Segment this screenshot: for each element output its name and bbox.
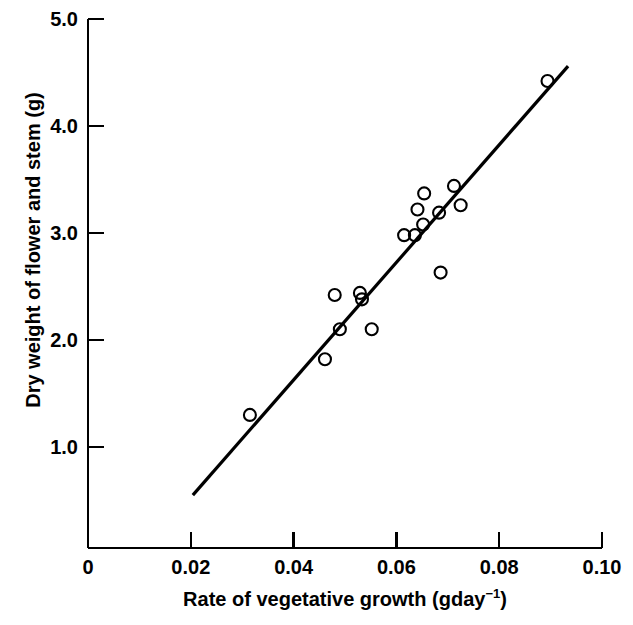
- y-axis-ticks: [88, 19, 104, 447]
- axis-lines: [88, 19, 602, 548]
- data-point: [417, 218, 429, 230]
- x-tick-label: 0.10: [583, 556, 622, 579]
- data-point: [329, 289, 341, 301]
- data-point-markers: [244, 75, 554, 421]
- data-point: [542, 75, 554, 87]
- data-point: [435, 267, 447, 279]
- data-point: [411, 203, 423, 215]
- x-axis-title-tail: ): [500, 588, 507, 610]
- plot-canvas: [0, 0, 633, 625]
- x-axis-ticks: [191, 532, 602, 548]
- x-tick-label: 0.06: [377, 556, 416, 579]
- data-point: [448, 180, 460, 192]
- x-tick-label: 0.08: [480, 556, 519, 579]
- x-axis-title: Rate of vegetative growth (gday−1): [88, 588, 602, 611]
- x-axis-title-exponent: −1: [485, 586, 500, 601]
- data-point: [319, 353, 331, 365]
- x-axis-title-base: Rate of vegetative growth (gday: [183, 588, 485, 610]
- trend-line: [193, 66, 568, 495]
- y-tick-label: 5.0: [50, 8, 78, 31]
- y-tick-label: 2.0: [50, 329, 78, 352]
- y-tick-label: 3.0: [50, 222, 78, 245]
- x-tick-label: 0: [82, 556, 93, 579]
- data-point: [366, 323, 378, 335]
- y-axis-title: Dry weight of flower and stem (g): [22, 0, 45, 500]
- x-tick-label: 0.04: [274, 556, 313, 579]
- data-point: [455, 199, 467, 211]
- y-tick-label: 4.0: [50, 115, 78, 138]
- scatter-plot-figure: 1.02.03.04.05.0 00.020.040.060.080.10 Dr…: [0, 0, 633, 625]
- data-point: [418, 187, 430, 199]
- data-point: [244, 409, 256, 421]
- trend-line-segment: [193, 66, 568, 495]
- y-tick-label: 1.0: [50, 436, 78, 459]
- x-tick-label: 0.02: [171, 556, 210, 579]
